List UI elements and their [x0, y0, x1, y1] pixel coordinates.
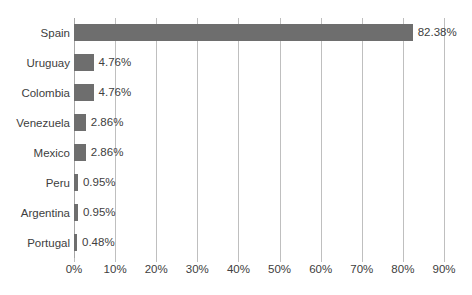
bar-row: 82.38%	[74, 18, 444, 48]
x-tick-label: 30%	[186, 260, 209, 278]
x-tick-label: 70%	[350, 260, 373, 278]
x-tick-label: 0%	[66, 260, 83, 278]
x-tick-mark	[197, 258, 198, 262]
bar-value-label: 4.76%	[94, 54, 132, 71]
category-label: Portugal	[0, 228, 70, 258]
x-tick-mark	[156, 258, 157, 262]
x-tick-label: 20%	[145, 260, 168, 278]
bar-row: 0.48%	[74, 228, 444, 258]
bar-row: 4.76%	[74, 48, 444, 78]
category-label: Uruguay	[0, 48, 70, 78]
bar-value-label: 4.76%	[94, 84, 132, 101]
bar-row: 2.86%	[74, 108, 444, 138]
bar-value-label: 0.48%	[77, 234, 115, 251]
x-tick-mark	[238, 258, 239, 262]
bar-row: 2.86%	[74, 138, 444, 168]
bar-value-label: 2.86%	[86, 144, 124, 161]
category-label: Colombia	[0, 78, 70, 108]
x-tick-mark	[362, 258, 363, 262]
x-tick-label: 10%	[104, 260, 127, 278]
bar[interactable]	[74, 84, 94, 101]
x-tick-label: 50%	[268, 260, 291, 278]
bar-row: 0.95%	[74, 168, 444, 198]
category-label: Venezuela	[0, 108, 70, 138]
bar-chart: SpainUruguayColombiaVenezuelaMexicoPeruA…	[0, 0, 472, 295]
category-axis: SpainUruguayColombiaVenezuelaMexicoPeruA…	[0, 18, 70, 258]
category-label: Mexico	[0, 138, 70, 168]
plot-area: 82.38%4.76%4.76%2.86%2.86%0.95%0.95%0.48…	[74, 18, 444, 258]
x-tick-mark	[403, 258, 404, 262]
bar-value-label: 2.86%	[86, 114, 124, 131]
x-tick-label: 40%	[227, 260, 250, 278]
bar-row: 4.76%	[74, 78, 444, 108]
bar[interactable]	[74, 54, 94, 71]
x-tick-label: 60%	[309, 260, 332, 278]
category-label: Peru	[0, 168, 70, 198]
x-tick-mark	[321, 258, 322, 262]
x-tick-mark	[280, 258, 281, 262]
x-tick-mark	[74, 258, 75, 262]
bar-row: 0.95%	[74, 198, 444, 228]
bar-value-label: 0.95%	[78, 204, 116, 221]
bar-value-label: 0.95%	[78, 174, 116, 191]
bar-value-label: 82.38%	[413, 24, 457, 41]
x-axis: 0%10%20%30%40%50%60%70%80%90%	[0, 260, 472, 282]
x-tick-label: 90%	[432, 260, 455, 278]
gridline	[444, 18, 445, 258]
category-label: Spain	[0, 18, 70, 48]
category-label: Argentina	[0, 198, 70, 228]
x-tick-label: 80%	[391, 260, 414, 278]
x-tick-mark	[115, 258, 116, 262]
x-tick-mark	[444, 258, 445, 262]
bar[interactable]	[74, 144, 86, 161]
bar[interactable]	[74, 24, 413, 41]
bar[interactable]	[74, 114, 86, 131]
